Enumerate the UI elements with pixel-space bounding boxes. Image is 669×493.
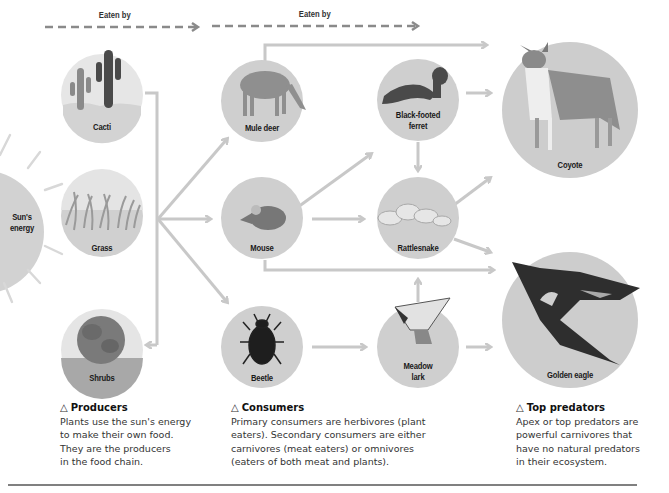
caption-consumers: △Consumers Primary consumers are herbivo… — [231, 401, 461, 469]
caption-consumers-title: Consumers — [242, 402, 305, 413]
triangle-icon: △ — [516, 402, 524, 413]
label-cacti: Cacti — [77, 122, 128, 133]
caption-predators-title: Top predators — [527, 402, 605, 413]
eaten-by-arrows — [45, 26, 418, 27]
caption-line: They are the producers — [60, 442, 230, 456]
label-rattlesnake: Rattlesnake — [384, 243, 452, 254]
label-mouse: Mouse — [228, 243, 296, 254]
sun-label-line1: Sun's — [5, 212, 39, 223]
label-meadowlark: Meadow lark — [384, 361, 452, 383]
label-golden-eagle: Golden eagle — [532, 370, 609, 381]
caption-consumers-heading: △Consumers — [231, 401, 461, 415]
bottom-divider — [8, 484, 637, 486]
caption-top-predators: △Top predators Apex or top predators are… — [516, 401, 666, 469]
caption-line: carnivores (meat eaters) or omnivores — [231, 442, 461, 456]
eaten-by-label-left: Eaten by — [99, 10, 131, 20]
triangle-icon: △ — [231, 402, 239, 413]
shrub-icon — [77, 316, 125, 364]
label-ferret: Black-footed ferret — [381, 110, 454, 132]
label-coyote: Coyote — [536, 160, 604, 171]
node-golden-eagle — [502, 252, 640, 388]
node-coyote — [502, 42, 638, 178]
caption-predators-heading: △Top predators — [516, 401, 666, 415]
sun-label: Sun's energy — [5, 212, 39, 234]
node-shrubs — [61, 309, 143, 399]
label-grass: Grass — [77, 243, 128, 254]
triangle-icon: △ — [60, 402, 68, 413]
label-mule-deer: Mule deer — [228, 123, 296, 134]
sun-label-line2: energy — [5, 223, 39, 234]
caption-line: Apex or top predators are — [516, 415, 666, 429]
label-ferret-line2: ferret — [381, 121, 454, 132]
caption-line: Primary consumers are herbivores (plant — [231, 415, 461, 429]
caption-line: eaters). Secondary consumers are either — [231, 428, 461, 442]
caption-line: to make their own food. — [60, 428, 230, 442]
label-meadowlark-line1: Meadow — [384, 361, 452, 372]
caption-producers: △Producers Plants use the sun's energy t… — [60, 401, 230, 469]
label-meadowlark-line2: lark — [384, 372, 452, 383]
caption-line: have no natural predators — [516, 442, 666, 456]
label-ferret-line1: Black-footed — [381, 110, 454, 121]
caption-producers-heading: △Producers — [60, 401, 230, 415]
label-shrubs: Shrubs — [77, 373, 128, 384]
eaten-by-label-right: Eaten by — [299, 9, 331, 19]
caption-line: in their ecosystem. — [516, 455, 666, 469]
caption-line: powerful carnivores that — [516, 428, 666, 442]
label-beetle: Beetle — [228, 373, 296, 384]
caption-line: in the food chain. — [60, 455, 230, 469]
caption-line: Plants use the sun's energy — [60, 415, 230, 429]
caption-producers-title: Producers — [71, 402, 128, 413]
caption-line: (eaters of both meat and plants). — [231, 455, 461, 469]
